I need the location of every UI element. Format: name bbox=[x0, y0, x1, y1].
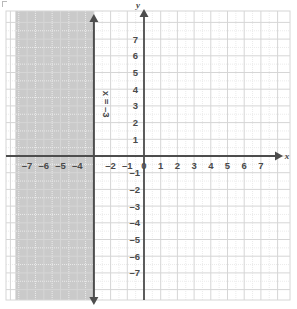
y-axis-label: y bbox=[135, 0, 141, 10]
y-tick-label-3: 3 bbox=[133, 100, 138, 111]
y-tick-label-6: 6 bbox=[133, 50, 138, 61]
x-tick-label-3: 3 bbox=[191, 160, 196, 171]
x-tick-label-neg4: –4 bbox=[72, 160, 83, 171]
x-tick-label-neg6: –6 bbox=[39, 160, 50, 171]
y-tick-label-2: 2 bbox=[133, 117, 138, 128]
corner-registration-mark bbox=[2, 1, 7, 7]
x-tick-label-2: 2 bbox=[175, 160, 180, 171]
y-tick-label-neg7: –7 bbox=[129, 267, 140, 278]
x-tick-label-6: 6 bbox=[242, 160, 247, 171]
y-tick-label-5: 5 bbox=[133, 67, 139, 78]
coordinate-plane-graph: –7–6–5–4–2–101234567 7654321 –1–2–3–4–5–… bbox=[0, 0, 297, 309]
y-tick-label-neg5: –5 bbox=[129, 234, 140, 245]
x-axis-label: x bbox=[284, 151, 290, 161]
y-tick-label-neg2: –2 bbox=[129, 184, 140, 195]
x-tick-label-0: 0 bbox=[141, 160, 146, 171]
y-tick-label-neg3: –3 bbox=[129, 201, 140, 212]
boundary-line-equation-label: x = –3 bbox=[101, 91, 112, 118]
y-tick-label-1: 1 bbox=[133, 134, 139, 145]
y-tick-label-neg4: –4 bbox=[129, 217, 140, 228]
x-tick-label-7: 7 bbox=[258, 160, 263, 171]
x-tick-label-4: 4 bbox=[208, 160, 214, 171]
x-tick-label-1: 1 bbox=[158, 160, 164, 171]
graph-canvas: –7–6–5–4–2–101234567 7654321 –1–2–3–4–5–… bbox=[0, 0, 297, 309]
y-tick-label-4: 4 bbox=[133, 84, 139, 95]
y-tick-label-neg1: –1 bbox=[129, 167, 140, 178]
y-tick-label-neg6: –6 bbox=[129, 251, 140, 262]
y-tick-label-7: 7 bbox=[133, 34, 138, 45]
x-tick-label-5: 5 bbox=[225, 160, 231, 171]
boundary-line-down-arrowhead bbox=[89, 297, 98, 305]
x-tick-label-neg7: –7 bbox=[22, 160, 33, 171]
x-tick-labels: –7–6–5–4–2–101234567 bbox=[22, 160, 264, 171]
x-tick-label-neg5: –5 bbox=[55, 160, 66, 171]
x-tick-label-neg2: –2 bbox=[105, 160, 116, 171]
